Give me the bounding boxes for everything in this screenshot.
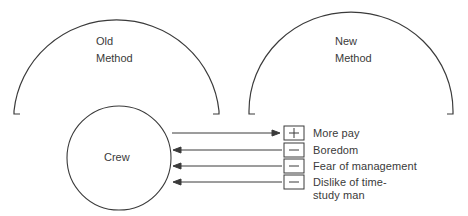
arrow-dislike-of-time-study-man [173, 179, 282, 185]
factor-label-line2: study man [313, 189, 387, 202]
minus-icon [284, 159, 304, 173]
factor-label-boredom: Boredom [313, 144, 358, 157]
factor-label-fear-of-management: Fear of management [313, 160, 417, 173]
factor-label-dislike-of-time-study-man: Dislike of time- study man [313, 176, 387, 202]
factor-label-line1: Dislike of time- [313, 176, 387, 189]
new-method-label: New Method [335, 33, 372, 67]
old-method-label: Old Method [96, 33, 133, 67]
new-method-label-line2: Method [335, 50, 372, 67]
diagram-canvas [0, 0, 468, 216]
arrow-fear-of-management [173, 163, 282, 169]
plus-icon [284, 126, 304, 140]
factor-label-more-pay: More pay [313, 127, 360, 140]
minus-icon [284, 143, 304, 157]
new-method-label-line1: New [335, 33, 372, 50]
minus-icon [284, 175, 304, 189]
old-method-label-line2: Method [96, 50, 133, 67]
old-method-label-line1: Old [96, 33, 133, 50]
arrow-boredom [173, 147, 282, 153]
arrow-more-pay [172, 130, 280, 136]
crew-label: Crew [104, 151, 130, 164]
